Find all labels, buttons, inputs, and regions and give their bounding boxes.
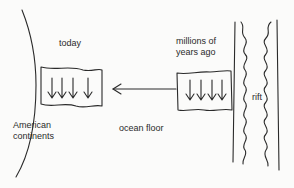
label-today: today: [59, 38, 81, 49]
label-rift: rift: [252, 92, 262, 103]
rift-left-boundary: [233, 22, 235, 162]
rift-left-wavy-edge: [241, 22, 247, 164]
leftward-motion-arrow: [113, 84, 176, 94]
seafloor-spreading-diagram: today millions of years ago American con…: [0, 0, 294, 188]
rift-right-wavy-edge: [264, 22, 271, 166]
rift-right-boundary: [277, 20, 279, 170]
label-millions-of-years-ago: millions of years ago: [176, 36, 216, 58]
today-down-arrows: [48, 78, 92, 98]
label-ocean-floor: ocean floor: [119, 123, 164, 134]
diagram-artwork: [0, 0, 294, 188]
today-stripe-block: [41, 67, 102, 107]
old-stripe-block: [177, 71, 232, 111]
continent-coastline: [16, 10, 36, 177]
label-american-continents: American continents: [13, 120, 54, 142]
old-down-arrows: [186, 80, 226, 100]
